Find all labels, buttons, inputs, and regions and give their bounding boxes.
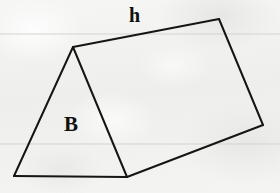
prism-drawing-canvas [0, 0, 280, 193]
base-area-label-b: B [64, 114, 78, 135]
back-triangle-right-side-edge [219, 19, 263, 125]
triangular-prism-shape [14, 19, 263, 177]
notebook-rule-lines [0, 34, 280, 144]
geometry-figure: h B [0, 0, 280, 193]
top-ridge-edge [73, 19, 219, 47]
front-triangle-right-side-edge [73, 47, 127, 177]
front-triangle-base-edge [14, 176, 127, 177]
height-label-h: h [129, 5, 140, 25]
bottom-slant-edge [127, 125, 263, 177]
